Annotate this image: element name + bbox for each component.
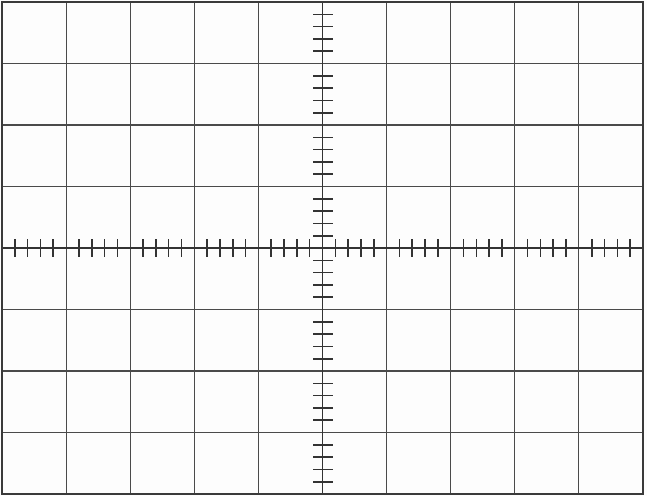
graticule-canvas bbox=[0, 0, 647, 496]
graticule-container bbox=[0, 0, 647, 496]
